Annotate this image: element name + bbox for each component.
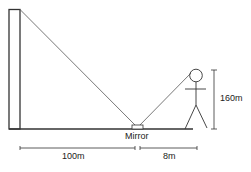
- light-ray-mirror-to-eye: [138, 73, 191, 127]
- diagram-canvas: Mirror 160m 100m 8m: [0, 0, 251, 172]
- person-stick-figure: [185, 69, 207, 129]
- mirror: [132, 125, 143, 129]
- dimension-100m: [20, 146, 135, 150]
- tower: [9, 10, 20, 130]
- person-head: [190, 69, 203, 82]
- person-left-leg: [185, 105, 196, 129]
- person-right-leg: [196, 105, 207, 128]
- light-ray-tower-to-mirror: [20, 10, 137, 128]
- mirror-label: Mirror: [125, 132, 149, 141]
- distance-8m-label: 8m: [163, 152, 176, 161]
- distance-100m-label: 100m: [62, 152, 85, 161]
- dimension-8m: [140, 146, 197, 150]
- person-height-label: 160m: [220, 94, 243, 103]
- diagram-drawing: [0, 0, 251, 172]
- height-dimension: [211, 70, 217, 129]
